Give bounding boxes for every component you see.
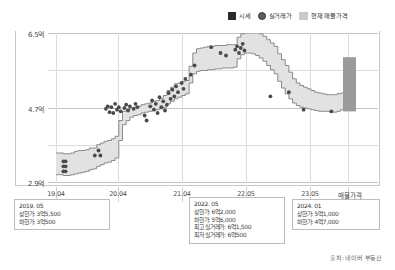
legend-item-market-price: 시세 xyxy=(228,11,251,20)
annotation-date-2022: 2022. 05 xyxy=(194,201,280,209)
transaction-point xyxy=(148,104,152,108)
transaction-point xyxy=(119,109,123,113)
x-tick-19-04: 19.04 xyxy=(33,190,79,198)
transaction-point xyxy=(97,149,101,153)
legend-item-current-listing: 현재 매물가격 xyxy=(299,11,348,20)
transaction-point xyxy=(123,106,127,110)
transaction-point xyxy=(219,51,223,55)
annotation-date-2019: 2019. 05 xyxy=(19,203,105,211)
annotation-box-2019: 2019. 05 상한가: 3억5,500 하한가: 3억500 xyxy=(14,199,110,230)
transaction-point xyxy=(184,77,188,81)
transaction-point xyxy=(243,49,247,53)
transaction-point xyxy=(99,154,103,158)
transaction-point xyxy=(302,108,306,112)
transaction-point xyxy=(235,44,239,48)
transaction-point xyxy=(161,99,165,103)
source-attribution: 출처: 네이버 부동산 xyxy=(330,253,382,262)
price-band-chart xyxy=(48,33,378,183)
transaction-point xyxy=(209,45,213,49)
legend-item-actual-transaction: 실거래가 xyxy=(258,11,292,20)
transaction-point xyxy=(64,164,68,168)
transaction-point xyxy=(132,107,136,111)
transaction-point xyxy=(106,104,110,108)
price-chart-screenshot: 시세 실거래가 현재 매물가격 6.5억 4.7억 2.9억 xyxy=(0,0,395,270)
transaction-point xyxy=(233,48,237,52)
transaction-point xyxy=(237,51,241,55)
current-listing-bar xyxy=(343,57,356,111)
annotation-row-min-actual-2022: 최저 실거래가: 6억500 xyxy=(194,232,280,240)
listing-price-bar xyxy=(343,57,356,111)
transaction-point xyxy=(126,109,130,113)
transaction-point xyxy=(152,108,156,112)
transaction-point xyxy=(189,73,193,77)
transaction-point xyxy=(239,46,243,50)
legend-label-market-price: 시세 xyxy=(239,11,251,20)
transaction-point xyxy=(135,105,139,109)
transaction-point xyxy=(174,84,178,88)
transaction-point xyxy=(154,102,158,106)
transaction-point xyxy=(117,105,121,109)
annotation-row-lower-2024: 하한가: 4억7,000 xyxy=(297,219,375,227)
transaction-point xyxy=(156,111,160,115)
transaction-point xyxy=(150,99,154,103)
transaction-point xyxy=(287,90,291,94)
transaction-point xyxy=(165,103,169,107)
annotation-date-2024: 2024. 01 xyxy=(297,203,375,211)
transaction-point xyxy=(169,97,173,101)
transaction-point xyxy=(193,64,197,68)
transaction-point xyxy=(163,109,167,113)
actual-transaction-dot-icon xyxy=(258,12,266,20)
transaction-point xyxy=(145,119,149,123)
transaction-point xyxy=(113,102,117,106)
transaction-point xyxy=(241,42,245,46)
transaction-point xyxy=(269,94,273,98)
legend-label-actual-transaction: 실거래가 xyxy=(269,11,292,20)
transaction-point xyxy=(180,81,184,85)
annotation-row-lower-2019: 하한가: 3억500 xyxy=(19,219,105,227)
plot-area xyxy=(48,33,378,183)
legend-label-current-listing: 현재 매물가격 xyxy=(311,11,348,20)
annotation-row-upper-2019: 상한가: 3억5,500 xyxy=(19,211,105,219)
annotation-row-max-actual-2022: 최고 실거래가: 6억1,500 xyxy=(194,224,280,232)
y-axis-label-top: 6.5억 xyxy=(14,29,44,39)
y-axis-label-middle: 4.7억 xyxy=(14,104,44,114)
annotation-row-upper-2024: 상한가: 5억1,000 xyxy=(297,211,375,219)
transaction-point xyxy=(64,169,68,173)
annotation-box-2022: 2022. 05 상한가: 6억2,000 하한가: 5억6,000 최고 실거… xyxy=(189,197,285,244)
transaction-point xyxy=(171,88,175,92)
transaction-point xyxy=(93,154,97,158)
transaction-point xyxy=(110,105,114,109)
transaction-point xyxy=(143,114,147,118)
transaction-point xyxy=(111,111,115,115)
annotation-box-2024: 2024. 01 상한가: 5억1,000 하한가: 4억7,000 xyxy=(292,199,380,230)
transaction-point xyxy=(159,105,163,109)
transaction-point xyxy=(108,110,112,114)
chart-legend: 시세 실거래가 현재 매물가격 xyxy=(228,11,347,20)
x-tick-20-04: 20.04 xyxy=(95,190,141,198)
market-price-swatch-icon xyxy=(228,12,236,20)
transaction-point xyxy=(224,54,228,58)
current-listing-swatch-icon xyxy=(299,12,308,20)
transaction-point xyxy=(64,159,68,163)
transaction-point xyxy=(124,103,128,107)
transaction-point xyxy=(172,94,176,98)
transaction-point xyxy=(176,90,180,94)
transaction-point xyxy=(167,91,171,95)
transaction-point xyxy=(128,104,132,108)
transaction-point xyxy=(330,109,334,113)
transaction-point xyxy=(158,95,162,99)
transaction-point xyxy=(182,87,186,91)
annotation-row-upper-2022: 상한가: 6억2,000 xyxy=(194,209,280,217)
transaction-point xyxy=(134,102,138,106)
